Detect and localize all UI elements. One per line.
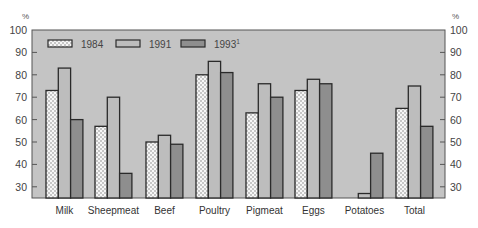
legend-label-1984: 1984 bbox=[81, 39, 104, 50]
x-category-label: Milk bbox=[56, 205, 75, 216]
bar-total-1984 bbox=[396, 108, 408, 198]
x-category-label: Pigmeat bbox=[246, 205, 283, 216]
bar-beef-1991 bbox=[158, 135, 170, 198]
y-tick-label-left: 50 bbox=[15, 136, 27, 148]
bar-sheepmeat-1993 bbox=[120, 173, 132, 198]
bar-chart: 3030404050506060707080809090100100%%Milk… bbox=[0, 0, 478, 228]
bar-potatoes-1991 bbox=[358, 194, 370, 198]
bar-poultry-1991 bbox=[208, 61, 220, 198]
y-tick-label-left: 60 bbox=[15, 114, 27, 126]
y-tick-label-left: 100 bbox=[9, 24, 27, 36]
y-tick-label-right: 80 bbox=[450, 69, 462, 81]
legend-swatch-1984 bbox=[48, 40, 72, 47]
bar-total-1991 bbox=[408, 86, 420, 198]
legend-label-1991: 1991 bbox=[149, 39, 172, 50]
bar-eggs-1991 bbox=[307, 79, 319, 198]
bar-pigmeat-1993 bbox=[271, 97, 283, 198]
y-tick-label-right: 90 bbox=[450, 46, 462, 58]
x-category-label: Beef bbox=[154, 205, 175, 216]
bar-pigmeat-1991 bbox=[258, 84, 270, 198]
y-unit-right: % bbox=[452, 12, 459, 21]
x-category-label: Total bbox=[404, 205, 425, 216]
bar-poultry-1984 bbox=[196, 75, 208, 198]
legend-swatch-1991 bbox=[116, 40, 140, 47]
y-tick-label-right: 30 bbox=[450, 181, 462, 193]
legend-swatch-1993 bbox=[181, 40, 205, 47]
x-category-label: Sheepmeat bbox=[88, 205, 139, 216]
y-tick-label-left: 30 bbox=[15, 181, 27, 193]
bar-poultry-1993 bbox=[221, 73, 233, 198]
bar-eggs-1984 bbox=[295, 90, 307, 198]
y-tick-label-right: 70 bbox=[450, 91, 462, 103]
y-tick-label-right: 60 bbox=[450, 114, 462, 126]
y-tick-label-right: 100 bbox=[450, 24, 468, 36]
bar-sheepmeat-1984 bbox=[95, 126, 107, 198]
bar-sheepmeat-1991 bbox=[107, 97, 119, 198]
x-category-label: Poultry bbox=[199, 205, 230, 216]
bar-milk-1991 bbox=[58, 68, 70, 198]
bar-potatoes-1993 bbox=[371, 153, 383, 198]
bar-total-1993 bbox=[421, 126, 433, 198]
bar-milk-1984 bbox=[46, 90, 58, 198]
x-category-label: Eggs bbox=[302, 205, 325, 216]
y-unit-left: % bbox=[22, 12, 29, 21]
y-tick-label-left: 40 bbox=[15, 158, 27, 170]
bar-milk-1993 bbox=[71, 120, 83, 198]
bar-pigmeat-1984 bbox=[246, 113, 258, 198]
y-tick-label-left: 80 bbox=[15, 69, 27, 81]
y-tick-label-left: 90 bbox=[15, 46, 27, 58]
y-tick-label-right: 50 bbox=[450, 136, 462, 148]
y-tick-label-right: 40 bbox=[450, 158, 462, 170]
bar-beef-1984 bbox=[146, 142, 158, 198]
bar-eggs-1993 bbox=[320, 84, 332, 198]
x-category-label: Potatoes bbox=[345, 205, 384, 216]
bar-beef-1993 bbox=[171, 144, 183, 198]
y-tick-label-left: 70 bbox=[15, 91, 27, 103]
